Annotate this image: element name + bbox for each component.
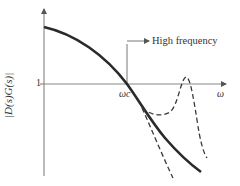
dashed-resonant-curve [142,77,207,158]
y-axis-label: |D(s)G(s)| [2,73,14,118]
crossover-frequency-label: ωc [119,88,131,99]
x-axis-label: ω [217,88,224,99]
y-tick-label: 1 [36,77,41,88]
high-frequency-label: High frequency [152,35,218,46]
